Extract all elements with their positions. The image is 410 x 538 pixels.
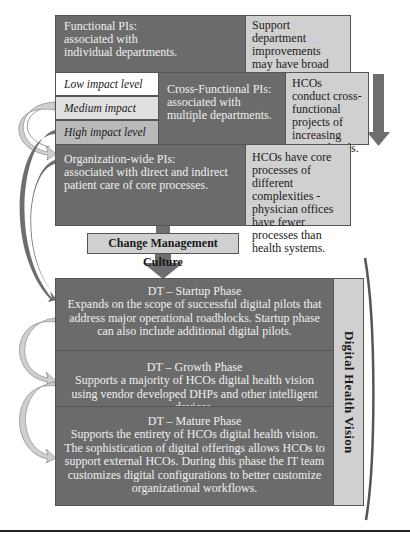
change-management-culture-box: Change Management Culture bbox=[87, 233, 239, 254]
vision-bracket bbox=[365, 258, 373, 520]
phase-growth-title: DT – Growth Phase bbox=[62, 361, 327, 374]
cross-functional-pis-box: Cross-Functional PIs: associated with mu… bbox=[158, 72, 286, 145]
functional-pis-note: Support department improvements may have… bbox=[245, 15, 351, 73]
digital-health-vision-label: Digital Health Vision bbox=[333, 278, 364, 506]
phase-startup-desc: Expands on the scope of successful digit… bbox=[62, 298, 327, 338]
phase-mature-title: DT – Mature Phase bbox=[62, 415, 327, 428]
organization-wide-note: HCOs have core processes of different co… bbox=[245, 144, 351, 226]
phase-startup-title: DT – Startup Phase bbox=[62, 285, 327, 298]
phase-startup: DT – Startup Phase Expands on the scope … bbox=[55, 278, 334, 351]
cross-functional-note: HCOs conduct cross-functional projects o… bbox=[285, 72, 369, 145]
cross-functional-desc-2: multiple departments. bbox=[167, 109, 277, 122]
down-arrow-icon bbox=[367, 74, 390, 146]
impact-level-high: High impact level bbox=[55, 120, 159, 145]
impact-level-low: Low impact level bbox=[55, 72, 159, 96]
phase-mature-desc: Supports the entirety of HCOs digital he… bbox=[62, 428, 327, 495]
phase-mature: DT – Mature Phase Supports the entirety … bbox=[55, 406, 334, 506]
impact-level-medium: Medium impact level bbox=[55, 96, 159, 120]
phase-growth: DT – Growth Phase Supports a majority of… bbox=[55, 350, 334, 407]
bottom-rule bbox=[0, 530, 410, 532]
